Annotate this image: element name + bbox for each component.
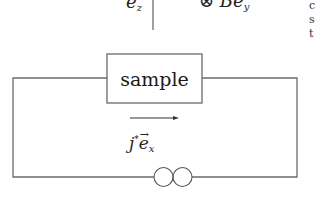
vec-sub: x xyxy=(149,143,155,154)
vector-arrow-icon: → xyxy=(140,128,149,141)
field-base: Be xyxy=(220,0,244,11)
sample-label: sample xyxy=(107,54,202,103)
vector-e: →e xyxy=(139,133,149,153)
into-page-icon: ⊗ xyxy=(199,0,214,11)
ez-label: ez xyxy=(126,0,142,13)
wire-right-top xyxy=(192,78,297,177)
current-label: j*→ex xyxy=(129,133,154,154)
source-circle-right xyxy=(173,168,192,187)
ez-sub: z xyxy=(137,2,142,13)
magnetic-field-label: ⊗ Bey xyxy=(199,0,249,12)
edge-fragment-3: t xyxy=(309,27,313,41)
source-circle-left xyxy=(154,168,173,187)
ez-base: e xyxy=(126,0,137,12)
edge-fragment-2: s xyxy=(309,13,315,27)
edge-fragment-1: c xyxy=(309,0,315,13)
arrow-head-icon xyxy=(173,116,179,120)
field-sub: y xyxy=(244,1,250,12)
